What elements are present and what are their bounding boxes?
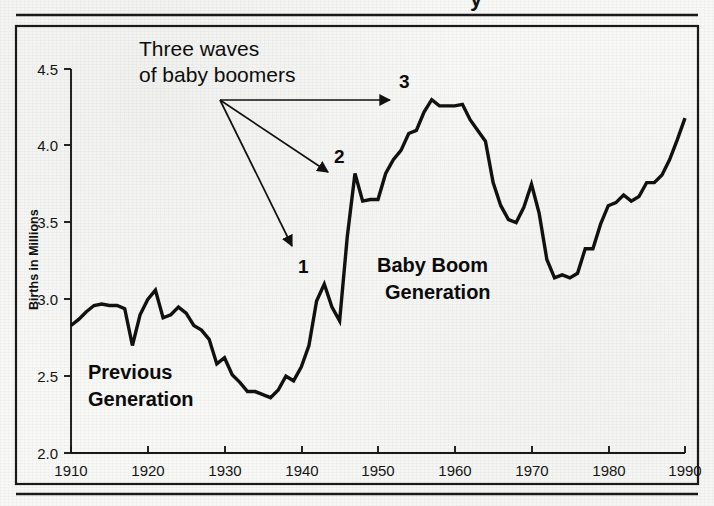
figure-border xyxy=(16,15,698,494)
y-tick-label-2-5: 2.5 xyxy=(37,368,58,385)
x-tick-label-1910: 1910 xyxy=(54,462,87,479)
wave-label-1: 1 xyxy=(298,256,309,277)
arrow-to-wave-2 xyxy=(220,100,328,172)
x-axis xyxy=(71,446,685,453)
x-tick-label-1980: 1980 xyxy=(592,462,625,479)
chart-svg: y 4.5 4.0 3.5 3.0 2.5 2.0 B xyxy=(0,0,714,506)
births-line xyxy=(71,100,685,398)
wave-label-3: 3 xyxy=(399,71,410,92)
baby-boom-line-2: Generation xyxy=(385,281,491,303)
callout-line-1: Three waves xyxy=(139,37,259,60)
x-tick-label-1930: 1930 xyxy=(208,462,241,479)
x-tick-label-1960: 1960 xyxy=(438,462,471,479)
callout-arrows xyxy=(220,100,390,246)
y-axis-title-text: Births in Millions xyxy=(27,209,41,310)
baby-boom-generation-label: Baby Boom Generation xyxy=(377,254,491,303)
clipped-title: y xyxy=(470,0,483,11)
y-axis xyxy=(64,69,71,453)
clipped-title-text: y xyxy=(470,0,483,11)
x-tick-labels: 1910 1920 1930 1940 1950 1960 1970 1980 … xyxy=(54,462,701,479)
data-series-group xyxy=(71,100,685,398)
wave-label-2: 2 xyxy=(334,146,345,167)
previous-generation-line-1: Previous xyxy=(88,361,172,383)
previous-generation-label: Previous Generation xyxy=(88,361,194,410)
y-axis-title: Births in Millions xyxy=(27,209,41,310)
callout-line-2: of baby boomers xyxy=(139,63,295,86)
y-tick-label-4-0: 4.0 xyxy=(37,137,58,154)
y-tick-label-2-0: 2.0 xyxy=(37,445,58,462)
baby-boom-line-1: Baby Boom xyxy=(377,254,488,276)
x-tick-label-1950: 1950 xyxy=(361,462,394,479)
x-tick-label-1970: 1970 xyxy=(515,462,548,479)
birth-rate-chart-figure: y 4.5 4.0 3.5 3.0 2.5 2.0 B xyxy=(0,0,714,506)
x-tick-label-1940: 1940 xyxy=(285,462,318,479)
previous-generation-line-2: Generation xyxy=(88,388,194,410)
arrow-to-wave-1 xyxy=(220,100,292,246)
y-tick-label-4-5: 4.5 xyxy=(37,61,58,78)
x-tick-label-1990: 1990 xyxy=(668,462,701,479)
x-tick-label-1920: 1920 xyxy=(131,462,164,479)
three-waves-callout: Three waves of baby boomers xyxy=(139,37,295,86)
